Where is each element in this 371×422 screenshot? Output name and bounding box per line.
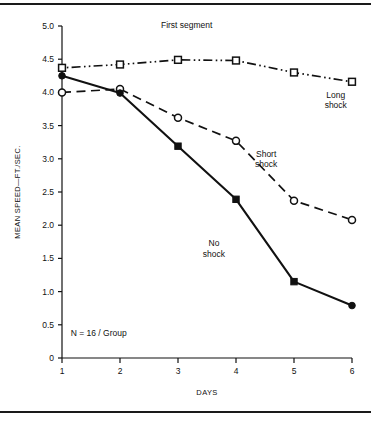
data-point-marker: [59, 73, 66, 80]
y-tick-label: 2.0: [42, 220, 54, 230]
figure-container: 00.51.01.52.02.53.03.54.04.55.0 123456 L…: [0, 0, 371, 422]
data-point-marker: [233, 196, 239, 202]
series-label-long-shock: Longshock: [325, 90, 348, 111]
y-tick-label: 4.0: [42, 87, 54, 97]
chart-plot-area: 00.51.01.52.02.53.03.54.04.55.0 123456 L…: [0, 6, 371, 409]
y-axis: 00.51.01.52.02.53.03.54.04.55.0: [42, 21, 62, 363]
series-long-shock: [59, 56, 356, 85]
x-axis: 123456: [60, 358, 355, 376]
data-point-marker: [117, 61, 124, 68]
series-line: [62, 60, 352, 82]
data-point-marker: [175, 114, 182, 121]
data-point-marker: [291, 69, 298, 76]
bottom-divider-rule: [0, 411, 371, 413]
data-point-marker: [233, 57, 240, 64]
series-labels-group: LongshockShortshockNoshock: [203, 90, 348, 259]
x-tick-label: 3: [176, 366, 181, 376]
data-point-marker: [291, 278, 297, 284]
series-label-short-shock: Shortshock: [255, 149, 278, 170]
series-label-no-shock: Noshock: [203, 238, 226, 259]
y-tick-label: 4.5: [42, 54, 54, 64]
y-tick-label: 3.0: [42, 154, 54, 164]
top-divider-rule: [0, 3, 371, 5]
series-no-shock: [59, 73, 356, 309]
data-point-marker: [349, 216, 356, 223]
data-point-marker: [349, 302, 356, 309]
sample-size-note: N = 16 / Group: [71, 328, 127, 338]
data-point-marker: [175, 143, 181, 149]
data-point-marker: [59, 64, 66, 71]
x-tick-label: 1: [60, 366, 65, 376]
data-point-marker: [233, 137, 240, 144]
line-chart: 00.51.01.52.02.53.03.54.04.55.0 123456 L…: [0, 6, 371, 409]
series-line: [62, 76, 352, 306]
data-series-group: [59, 56, 356, 308]
x-tick-label: 6: [350, 366, 355, 376]
y-tick-label: 5.0: [42, 21, 54, 31]
data-point-marker: [59, 89, 66, 96]
x-tick-label: 4: [234, 366, 239, 376]
y-tick-label: 3.5: [42, 121, 54, 131]
chart-title: First segment: [161, 20, 213, 30]
y-tick-label: 2.5: [42, 187, 54, 197]
series-line: [62, 89, 352, 220]
data-point-marker: [175, 56, 182, 63]
y-tick-label: 1.0: [42, 287, 54, 297]
series-short-shock: [59, 86, 356, 224]
data-point-marker: [117, 90, 124, 97]
y-tick-label: 0: [49, 353, 54, 363]
y-tick-label: 1.5: [42, 253, 54, 263]
x-axis-title: DAYS: [196, 388, 217, 397]
y-tick-label: 0.5: [42, 320, 54, 330]
data-point-marker: [291, 197, 298, 204]
y-axis-title: MEAN SPEED—FT./SEC.: [13, 145, 22, 238]
data-point-marker: [349, 78, 356, 85]
x-tick-label: 5: [292, 366, 297, 376]
x-tick-label: 2: [118, 366, 123, 376]
